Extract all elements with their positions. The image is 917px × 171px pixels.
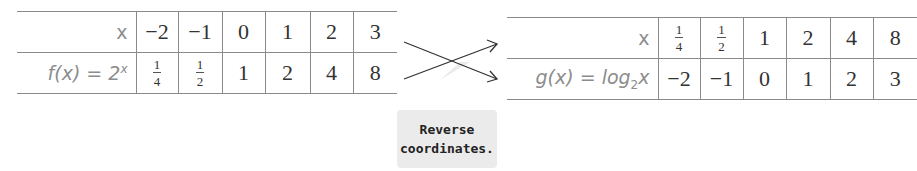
numerator: 1 [675, 23, 684, 38]
cell: 0 [222, 12, 265, 53]
row-label-gx: g(x) = log2x [507, 59, 658, 100]
reverse-coordinates-callout: Reverse coordinates. [397, 110, 497, 168]
cell: 1 [743, 18, 786, 59]
denominator: 4 [676, 38, 683, 53]
cell: 1 [265, 12, 310, 53]
cell: 1 [786, 59, 830, 100]
fraction: 14 [675, 23, 684, 53]
label-sup: x [120, 62, 127, 76]
table-row: x 14 12 1 2 4 8 [507, 18, 917, 59]
row-label-fx: f(x) = 2x [17, 53, 136, 94]
cell: 3 [353, 12, 397, 53]
cell: 8 [873, 18, 917, 59]
cell: 3 [873, 59, 917, 100]
numerator: 1 [196, 58, 205, 73]
exponential-table: x −2 −1 0 1 2 3 f(x) = 2x 14 12 1 2 4 8 [17, 11, 397, 94]
label-suffix: x [638, 66, 649, 88]
callout-pointer [440, 62, 470, 80]
cell: 0 [743, 59, 786, 100]
numerator: 1 [153, 58, 162, 73]
fraction: 12 [196, 58, 205, 88]
table-row: f(x) = 2x 14 12 1 2 4 8 [17, 53, 397, 94]
cell: 4 [830, 18, 873, 59]
cell: 12 [700, 18, 743, 59]
cell: 4 [310, 53, 353, 94]
row-label-x: x [17, 12, 136, 53]
cell: −2 [136, 12, 178, 53]
cell: −2 [658, 59, 700, 100]
denominator: 4 [154, 73, 161, 88]
cell: 1 [222, 53, 265, 94]
label-text: g(x) = log [536, 66, 631, 88]
denominator: 2 [718, 38, 725, 53]
label-text: f(x) = 2 [48, 62, 121, 84]
cell: −1 [178, 12, 222, 53]
fraction: 12 [717, 23, 726, 53]
callout-line2: coordinates. [397, 139, 497, 158]
cell: −1 [700, 59, 743, 100]
cell: 2 [310, 12, 353, 53]
table-row: g(x) = log2x −2 −1 0 1 2 3 [507, 59, 917, 100]
cell: 2 [786, 18, 830, 59]
cell: 2 [265, 53, 310, 94]
cell: 14 [658, 18, 700, 59]
cell: 14 [136, 53, 178, 94]
denominator: 2 [197, 73, 204, 88]
fraction: 14 [153, 58, 162, 88]
cell: 8 [353, 53, 397, 94]
cell: 12 [178, 53, 222, 94]
callout-line1: Reverse [397, 120, 497, 139]
numerator: 1 [717, 23, 726, 38]
row-label-x: x [507, 18, 658, 59]
table-row: x −2 −1 0 1 2 3 [17, 12, 397, 53]
logarithm-table: x 14 12 1 2 4 8 g(x) = log2x −2 −1 0 1 2… [507, 17, 917, 100]
cell: 2 [830, 59, 873, 100]
